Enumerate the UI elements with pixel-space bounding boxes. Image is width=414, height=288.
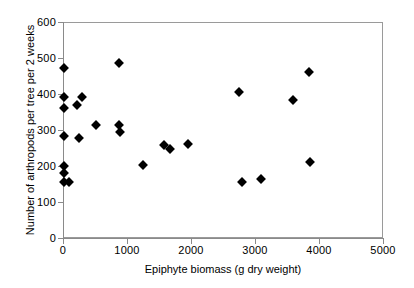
x-axis-tick-label: 1000 — [114, 245, 139, 256]
x-axis-title: Epiphyte biomass (g dry weight) — [63, 263, 383, 275]
x-axis-tick-label: 5000 — [370, 245, 395, 256]
plot-area — [63, 22, 383, 238]
y-axis-tick-label: 100 — [37, 197, 56, 208]
y-axis-tick-label: 600 — [37, 17, 56, 28]
y-axis-tick-label: 500 — [37, 53, 56, 64]
y-axis-tick-label: 0 — [50, 233, 56, 244]
x-axis-tick-label: 3000 — [242, 245, 267, 256]
y-axis-tick — [58, 22, 63, 23]
y-axis-tick — [58, 58, 63, 59]
x-axis-tick-label: 4000 — [306, 245, 331, 256]
y-axis-tick-label: 200 — [37, 161, 56, 172]
x-axis-tick-label: 0 — [60, 245, 66, 256]
y-axis-tick — [58, 202, 63, 203]
x-axis-tick-label: 2000 — [178, 245, 203, 256]
y-axis-tick-label: 300 — [37, 125, 56, 136]
y-axis-tick-label: 400 — [37, 89, 56, 100]
x-axis-line — [63, 238, 384, 239]
y-axis-title: Number of arthropods per tree per 2 week… — [24, 12, 36, 248]
scatter-chart: 0100200300400500600 01000200030004000500… — [0, 0, 414, 288]
